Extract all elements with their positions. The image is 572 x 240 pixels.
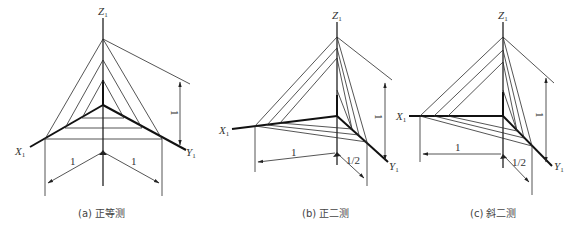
dim-x-c: 1 [455,141,461,153]
caption-a: (a) 正等测 [78,205,125,220]
dim-x-b: 1 [291,146,297,158]
panel-a-isometric: 1 1 1 Z1 X1 Y1 [14,5,196,196]
dim-z-c: 1 [534,112,546,118]
axis-label-x-a: X1 [14,145,26,159]
dim-y-a: 1 [131,155,137,167]
axis-label-y-a: Y1 [186,146,196,160]
dim-z-b: 1 [373,114,385,120]
dim-y-b: 1/2 [346,154,360,166]
panel-c-oblique-dimetric: 1 1 1/2 Z1 X1 Y1 [395,9,564,195]
caption-c: (c) 斜二测 [470,205,516,220]
dim-x-a: 1 [70,155,76,167]
axis-label-z-b: Z1 [332,9,342,23]
axonometric-diagram: 1 1 1 Z1 X1 Y1 1 [0,0,572,240]
caption-b: (b) 正二测 [302,205,349,220]
panel-b-dimetric: 1 1 1/2 Z1 X1 Y1 [218,9,399,186]
axis-label-y-b: Y1 [389,160,399,174]
axis-label-y-c: Y1 [554,160,564,174]
axis-label-x-c: X1 [395,110,407,124]
axis-label-x-b: X1 [218,124,230,138]
axis-label-z-a: Z1 [98,5,108,19]
dim-y-c: 1/2 [512,156,526,168]
dim-z-a: 1 [169,110,181,116]
axis-label-z-c: Z1 [498,9,508,23]
